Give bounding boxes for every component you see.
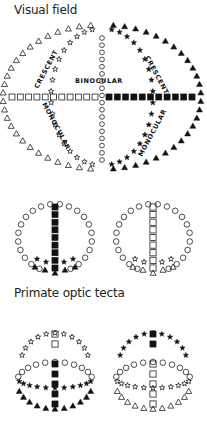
tecta-pair-upper [15,201,192,275]
open-tri-icon [76,164,82,169]
open-cir-icon [131,362,137,368]
open-cir-icon [87,247,93,253]
filled-tri-icon [88,388,94,393]
filled-tri-icon [143,29,149,34]
open-tri-icon [4,73,10,78]
open-cir-icon [116,222,122,228]
open-star-icon [23,345,28,350]
binocular-label: BINOCULAR [75,77,123,85]
open-tri-icon [55,159,61,164]
filled-sq-icon [52,204,58,210]
filled-tri-icon [198,90,204,95]
open-cir-icon [140,360,146,366]
open-cir-icon [74,208,80,214]
filled-tri-icon [185,131,191,136]
filled-tri-icon [83,394,89,399]
open-tri-icon [88,22,94,27]
filled-sq-icon [123,94,129,100]
open-cir-icon [127,261,133,267]
filled-star-icon [150,88,155,93]
open-tri-icon [168,403,174,408]
open-tri-icon [1,107,7,112]
filled-sq-icon [131,94,137,100]
open-cir-icon [18,247,24,253]
open-sq-icon [150,234,156,240]
filled-tri-icon [198,98,204,103]
open-sq-icon [17,94,23,100]
open-cir-icon [164,204,170,210]
open-cir-icon [113,374,119,380]
open-cir-icon [136,204,142,210]
filled-star-icon [124,155,129,160]
open-sq-icon [150,227,156,233]
open-cir-icon [183,369,189,375]
open-tri-icon [8,123,14,128]
open-tri-icon [65,162,71,167]
open-tri-icon [4,115,10,120]
filled-sq-icon [156,94,162,100]
open-cir-icon [100,129,105,134]
open-star-icon [52,66,57,71]
filled-sq-icon [52,234,58,240]
filled-star-icon [159,331,164,336]
filled-sq-icon [52,381,58,387]
open-tri-icon [118,394,124,399]
filled-star-icon [84,381,89,386]
open-tri-icon [55,29,61,34]
open-star-icon [182,381,187,386]
open-cir-icon [38,204,44,210]
open-star-icon [76,339,81,344]
filled-tri-icon [133,26,139,31]
open-sq-icon [9,94,15,100]
open-tri-icon [125,399,131,404]
filled-tri-icon [143,159,149,164]
open-cir-icon [174,261,180,267]
open-sq-icon [59,94,65,100]
open-cir-icon [169,362,175,368]
filled-star-icon [141,331,146,336]
open-cir-icon [187,239,193,245]
filled-tri-icon [194,115,200,120]
open-tri-icon [140,267,146,272]
open-tri-icon [0,90,6,95]
open-star-icon [69,334,74,339]
open-cir-icon [100,136,105,141]
open-tri-icon [160,267,166,272]
open-star-icon [159,259,164,264]
filled-tri-icon [122,23,128,28]
open-cir-icon [42,360,48,366]
open-sq-icon [150,242,156,248]
filled-tri-icon [194,73,200,78]
open-cir-icon [187,230,193,236]
filled-tri-icon [190,123,196,128]
open-star-icon [61,47,66,52]
open-cir-icon [172,208,178,214]
filled-tri-icon [171,44,177,49]
visual-field-diagram: BINOCULAR CRESCENT CRESCENT MONOCULAR MO… [0,0,207,421]
open-sq-icon [26,94,32,100]
filled-tri-icon [61,405,67,410]
open-star-icon [85,352,90,357]
open-cir-icon [22,255,28,261]
open-cir-icon [85,369,91,375]
open-tri-icon [141,405,147,410]
open-tri-icon [76,23,82,28]
open-cir-icon [180,255,186,261]
open-cir-icon [82,255,88,261]
visual-field-ellipse [0,22,204,171]
open-sq-icon [150,391,156,397]
filled-star-icon [131,149,136,154]
filled-star-icon [43,259,48,264]
tecta-pair-lower [15,330,192,411]
open-cir-icon [177,365,183,371]
filled-tri-icon [190,65,196,70]
filled-tri-icon [43,405,49,410]
open-tri-icon [186,388,192,393]
open-cir-icon [89,230,95,236]
filled-star-icon [70,256,75,261]
filled-tri-icon [178,138,184,143]
open-cir-icon [29,261,35,267]
open-sq-icon [51,94,57,100]
filled-star-icon [149,111,154,116]
open-star-icon [67,40,72,45]
